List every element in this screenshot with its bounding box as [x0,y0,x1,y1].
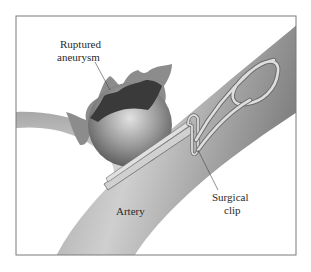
label-clip: clip [224,204,241,216]
aneurysm-leader-line [95,62,110,90]
aneurysm-clip-diagram: Ruptured aneurysm Surgical clip Artery [0,0,311,272]
label-artery: Artery [116,205,145,217]
label-surgical: Surgical [212,191,248,203]
label-ruptured: Ruptured [60,38,101,50]
label-aneurysm: aneurysm [57,51,100,63]
